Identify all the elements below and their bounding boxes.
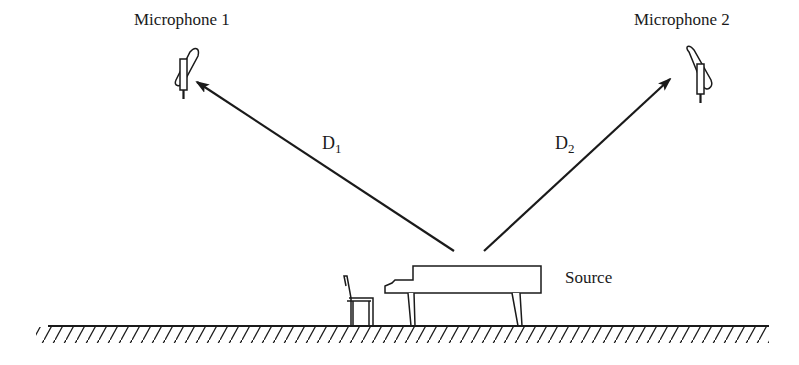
distance-d2-symbol: D	[555, 133, 568, 153]
microphone-2-label: Microphone 2	[634, 10, 730, 30]
grand-piano-icon	[385, 266, 541, 326]
distance-d2-subscript: 2	[568, 141, 575, 156]
distance-d2-label: D2	[555, 133, 575, 157]
microphone-2-icon	[687, 46, 712, 103]
distance-d1-label: D1	[322, 133, 342, 157]
diagram-graphics	[0, 0, 799, 365]
microphone-1-label: Microphone 1	[134, 10, 230, 30]
piano-bench-icon	[344, 276, 373, 325]
microphone-distance-diagram: Microphone 1 Microphone 2 D1 D2 Source	[0, 0, 799, 365]
distance-d1-arrow	[197, 82, 454, 251]
ground-floor	[30, 325, 769, 345]
source-label: Source	[565, 268, 612, 288]
distance-d2-arrow	[484, 79, 670, 251]
distance-d1-symbol: D	[322, 133, 335, 153]
microphone-1-icon	[175, 49, 198, 99]
distance-d1-subscript: 1	[335, 141, 342, 156]
